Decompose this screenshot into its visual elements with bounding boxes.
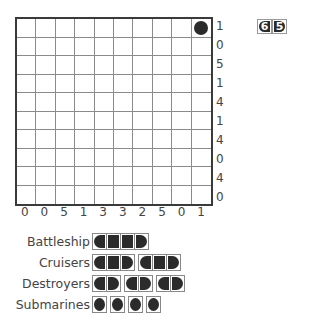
grid-cell[interactable] xyxy=(75,186,94,205)
grid-cell[interactable] xyxy=(36,19,55,38)
grid-cell[interactable] xyxy=(133,56,152,75)
grid-cell[interactable] xyxy=(114,112,133,131)
grid-cell[interactable] xyxy=(56,19,75,38)
grid-cell[interactable] xyxy=(114,149,133,168)
grid-cell[interactable] xyxy=(36,167,55,186)
grid-cell[interactable] xyxy=(133,130,152,149)
grid-cell[interactable] xyxy=(95,112,114,131)
grid-cell[interactable] xyxy=(192,75,211,94)
grid-cell[interactable] xyxy=(36,130,55,149)
grid-cell[interactable] xyxy=(192,149,211,168)
grid-cell[interactable] xyxy=(153,149,172,168)
grid-cell[interactable] xyxy=(192,130,211,149)
grid-cell[interactable] xyxy=(172,93,191,112)
grid-cell[interactable] xyxy=(114,19,133,38)
grid-cell[interactable] xyxy=(153,186,172,205)
grid-cell[interactable] xyxy=(75,149,94,168)
grid-cell[interactable] xyxy=(17,112,36,131)
grid-cell[interactable] xyxy=(114,93,133,112)
grid-cell[interactable] xyxy=(56,149,75,168)
grid-cell[interactable] xyxy=(56,186,75,205)
grid-cell[interactable] xyxy=(95,56,114,75)
grid-cell[interactable] xyxy=(192,112,211,131)
grid-cell[interactable] xyxy=(95,167,114,186)
grid-cell[interactable] xyxy=(172,19,191,38)
grid-cell[interactable] xyxy=(75,167,94,186)
grid-cell[interactable] xyxy=(56,38,75,57)
grid-cell[interactable] xyxy=(75,38,94,57)
grid-cell[interactable] xyxy=(36,186,55,205)
grid-cell[interactable] xyxy=(17,186,36,205)
grid-cell[interactable] xyxy=(75,112,94,131)
grid-cell[interactable] xyxy=(172,130,191,149)
grid-cell[interactable] xyxy=(56,130,75,149)
grid-cell[interactable] xyxy=(192,167,211,186)
grid-cell[interactable] xyxy=(172,186,191,205)
grid-cell[interactable] xyxy=(75,130,94,149)
grid-cell[interactable] xyxy=(192,19,211,38)
grid-cell[interactable] xyxy=(17,130,36,149)
grid-cell[interactable] xyxy=(133,93,152,112)
grid-cell[interactable] xyxy=(36,56,55,75)
grid-cell[interactable] xyxy=(75,93,94,112)
grid-cell[interactable] xyxy=(95,186,114,205)
grid-cell[interactable] xyxy=(172,167,191,186)
grid-cell[interactable] xyxy=(17,167,36,186)
grid-cell[interactable] xyxy=(36,75,55,94)
grid-cell[interactable] xyxy=(172,112,191,131)
grid-cell[interactable] xyxy=(36,149,55,168)
grid-cell[interactable] xyxy=(75,75,94,94)
grid-cell[interactable] xyxy=(36,93,55,112)
grid-cell[interactable] xyxy=(95,149,114,168)
grid-cell[interactable] xyxy=(114,56,133,75)
grid-cell[interactable] xyxy=(56,167,75,186)
grid-cell[interactable] xyxy=(133,19,152,38)
grid-cell[interactable] xyxy=(17,56,36,75)
grid-cell[interactable] xyxy=(56,112,75,131)
grid-cell[interactable] xyxy=(133,167,152,186)
grid-cell[interactable] xyxy=(114,186,133,205)
grid-cell[interactable] xyxy=(133,186,152,205)
grid-cell[interactable] xyxy=(172,149,191,168)
grid-cell[interactable] xyxy=(133,38,152,57)
grid-cell[interactable] xyxy=(114,130,133,149)
grid-cell[interactable] xyxy=(17,75,36,94)
grid-cell[interactable] xyxy=(192,93,211,112)
grid-cell[interactable] xyxy=(133,149,152,168)
grid-cell[interactable] xyxy=(172,56,191,75)
grid-cell[interactable] xyxy=(192,56,211,75)
grid-cell[interactable] xyxy=(192,38,211,57)
grid-cell[interactable] xyxy=(153,130,172,149)
grid-cell[interactable] xyxy=(153,93,172,112)
grid-cell[interactable] xyxy=(95,93,114,112)
grid-cell[interactable] xyxy=(75,56,94,75)
grid-cell[interactable] xyxy=(153,38,172,57)
grid-cell[interactable] xyxy=(153,56,172,75)
grid-cell[interactable] xyxy=(56,75,75,94)
grid-cell[interactable] xyxy=(95,19,114,38)
grid-cell[interactable] xyxy=(95,38,114,57)
grid-cell[interactable] xyxy=(17,149,36,168)
grid-cell[interactable] xyxy=(95,130,114,149)
grid-cell[interactable] xyxy=(153,75,172,94)
grid-cell[interactable] xyxy=(133,112,152,131)
grid-cell[interactable] xyxy=(153,112,172,131)
grid-cell[interactable] xyxy=(153,167,172,186)
grid-cell[interactable] xyxy=(172,38,191,57)
grid-cell[interactable] xyxy=(75,19,94,38)
grid-cell[interactable] xyxy=(95,75,114,94)
grid-cell[interactable] xyxy=(172,75,191,94)
grid-cell[interactable] xyxy=(153,19,172,38)
grid-cell[interactable] xyxy=(133,75,152,94)
grid-cell[interactable] xyxy=(114,38,133,57)
grid-cell[interactable] xyxy=(17,38,36,57)
grid-cell[interactable] xyxy=(36,38,55,57)
grid-cell[interactable] xyxy=(114,75,133,94)
grid-cell[interactable] xyxy=(36,112,55,131)
grid-cell[interactable] xyxy=(17,19,36,38)
grid-cell[interactable] xyxy=(17,93,36,112)
grid-cell[interactable] xyxy=(56,93,75,112)
grid-cell[interactable] xyxy=(56,56,75,75)
grid-cell[interactable] xyxy=(192,186,211,205)
grid-cell[interactable] xyxy=(114,167,133,186)
